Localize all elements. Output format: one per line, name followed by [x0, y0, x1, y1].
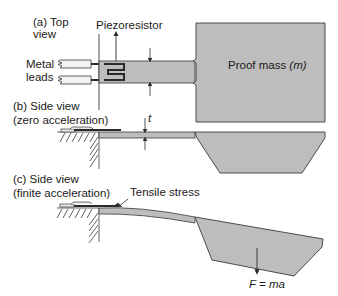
panel-b-title-line1: (b) Side view: [13, 100, 80, 112]
panel-b-title-line2: (zero acceleration): [13, 114, 108, 126]
piezoresistor-label: Piezoresistor: [96, 19, 163, 31]
anchor-support-b: [57, 132, 99, 169]
metal-leads-label-line2: leads: [26, 71, 54, 83]
tensile-stress-label: Tensile stress: [130, 186, 200, 198]
panel-c-title-line2: (finite acceleration): [13, 187, 110, 199]
lead-bump-c: [71, 202, 92, 204]
anchor-support-c: [57, 208, 99, 243]
lead-bump-b: [70, 127, 93, 129]
proof-mass-label: Proof mass (m): [228, 59, 307, 71]
thickness-label: t: [148, 112, 152, 124]
panel-a-title-line2: view: [33, 28, 57, 40]
force-label: F = ma: [249, 278, 285, 290]
proof-mass-deflected: [195, 217, 323, 276]
metal-lead-lower: [58, 76, 91, 84]
arrowhead-icon: [114, 31, 119, 36]
panel-side-view-finite: (c) Side view (finite acceleration) Tens…: [13, 173, 323, 290]
cantilever-beam-bent: [99, 208, 195, 223]
cantilever-beam-side-b: [99, 132, 195, 138]
metal-lead-side-c: [60, 204, 74, 207]
panel-c-title-line1: (c) Side view: [13, 173, 80, 185]
panel-a-title-line1: (a) Top: [33, 16, 69, 28]
metal-lead-upper: [58, 60, 91, 68]
accelerometer-diagram: (a) Top view Piezoresistor Metal leads P…: [0, 0, 338, 296]
metal-leads-label-line1: Metal: [26, 58, 54, 70]
proof-mass-top: [193, 23, 325, 122]
metal-lead-side-b: [61, 129, 75, 132]
proof-mass-side-b: [195, 132, 325, 173]
